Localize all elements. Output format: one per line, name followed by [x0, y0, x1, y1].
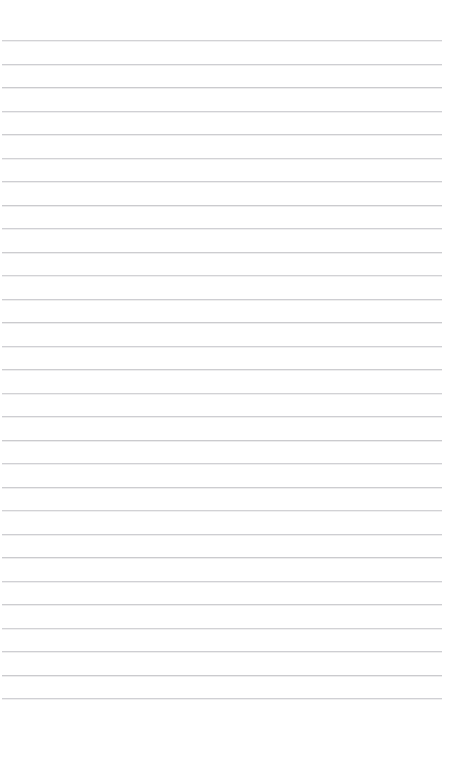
page-content-text[interactable]	[0, 0, 449, 781]
lined-paper-page	[0, 0, 449, 781]
